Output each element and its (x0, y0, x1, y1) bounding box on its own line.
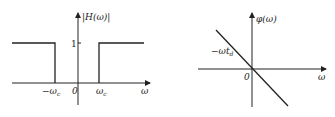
phase-line-label: −ωtd (211, 46, 234, 57)
magnitude-y-label: |H(ω)| (82, 12, 110, 23)
pos-cutoff-label: ωc (96, 86, 107, 97)
level-one-label: 1 (71, 39, 77, 49)
magnitude-origin-label: 0 (72, 86, 78, 96)
phase-y-label: φ(ω) (256, 14, 277, 24)
phase-origin-label: 0 (244, 72, 250, 82)
figure-canvas: |H(ω)| 1 −ωc 0 ωc ω φ(ω) −ωtd 0 ω (0, 0, 335, 117)
phase-plot: φ(ω) −ωtd 0 ω (198, 13, 326, 107)
phase-x-label: ω (318, 72, 326, 82)
magnitude-left-passband (12, 43, 55, 83)
neg-cutoff-label: −ωc (42, 86, 61, 97)
magnitude-x-label: ω (141, 86, 149, 96)
magnitude-right-passband (99, 43, 144, 83)
magnitude-plot: |H(ω)| 1 −ωc 0 ωc ω (12, 12, 150, 105)
